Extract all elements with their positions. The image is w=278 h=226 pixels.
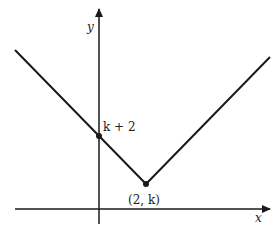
y-intercept-point — [96, 133, 102, 139]
vertex-label: (2, k) — [128, 193, 160, 207]
y-intercept-label: k + 2 — [103, 120, 136, 134]
vertex-point — [143, 181, 149, 187]
y-axis-label: y — [86, 20, 94, 34]
v-graph — [15, 50, 270, 184]
x-axis-label: x — [255, 211, 262, 225]
graph: y x k + 2 (2, k) — [0, 0, 278, 226]
